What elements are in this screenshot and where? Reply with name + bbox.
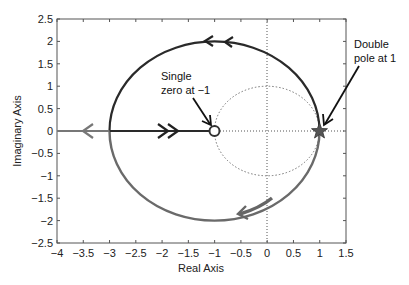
x-tick-label: −1.5	[178, 247, 200, 259]
x-tick-label: −1	[208, 247, 221, 259]
y-tick-label: 2.5	[38, 13, 53, 25]
y-tick-label: 1	[47, 80, 53, 92]
y-tick-label: −1.5	[31, 192, 53, 204]
x-tick-labels: −4−3.5−3−2.5−2−1.5−1−0.500.511.5	[51, 247, 354, 259]
x-tick-label: 1	[317, 247, 323, 259]
y-tick-label: −2.5	[31, 237, 53, 249]
y-axis-label: Imaginary Axis	[11, 95, 23, 167]
root-locus-chart: Single zero at −1 Double pole at 1 Real …	[0, 0, 409, 285]
x-tick-label: −3.5	[72, 247, 94, 259]
y-tick-label: −0.5	[31, 147, 53, 159]
y-tick-label: −1	[40, 170, 53, 182]
x-tick-label: −0.5	[230, 247, 252, 259]
pole-annotation-line1: Double	[354, 38, 389, 50]
pole-annotation-line2: pole at 1	[354, 52, 396, 64]
y-tick-labels: −2.5−2−1.5−1−0.500.511.522.5	[31, 13, 53, 249]
y-tick-label: 0	[47, 125, 53, 137]
zero-annotation-line2: zero at −1	[161, 84, 210, 96]
y-tick-label: −2	[40, 215, 53, 227]
x-axis-label: Real Axis	[178, 262, 224, 274]
x-tick-label: −2	[156, 247, 169, 259]
x-tick-label: −2.5	[125, 247, 147, 259]
zero-marker	[210, 126, 220, 136]
x-tick-label: 1.5	[338, 247, 353, 259]
y-tick-label: 2	[47, 35, 53, 47]
zero-annotation-line1: Single	[161, 70, 192, 82]
y-tick-label: 1.5	[38, 58, 53, 70]
x-tick-label: 0	[264, 247, 270, 259]
x-tick-label: −3	[103, 247, 116, 259]
y-tick-label: 0.5	[38, 103, 53, 115]
x-tick-label: 0.5	[286, 247, 301, 259]
